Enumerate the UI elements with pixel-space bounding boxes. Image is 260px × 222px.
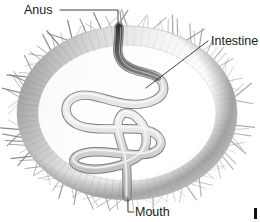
corner-copyright-mark <box>254 208 257 219</box>
anatomy-figure: Anus Intestine Mouth <box>0 0 260 222</box>
label-intestine: Intestine <box>211 34 258 48</box>
label-mouth: Mouth <box>135 205 170 219</box>
label-anus: Anus <box>24 3 53 17</box>
anatomy-illustration: Anus Intestine Mouth <box>0 0 260 222</box>
